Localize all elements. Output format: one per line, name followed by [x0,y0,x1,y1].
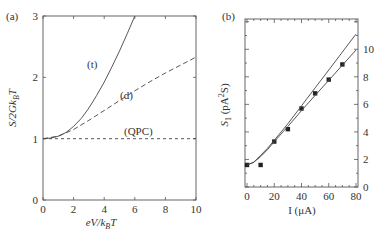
panel-b-ticks: 0204060800246810 [244,19,374,202]
x-tick-label: 40 [296,190,308,202]
x-tick-label: 20 [269,190,281,202]
panel-a-ticks: 02468100123 [33,10,203,215]
panel-b-label: (b) [222,10,235,23]
panel-a-frame [43,16,196,200]
fit-line [247,34,356,165]
panel-b: 0204060800246810 (b) I (μA) S1 (pA2S) [217,10,375,217]
data-point [258,163,262,167]
panel-a-label: (a) [6,10,19,23]
y-tick-label: 8 [363,71,369,83]
panel-b-ylabel: S1 (pA2S) [217,83,233,126]
panel-a-xlabel: eV/kBT [86,216,117,231]
figure: 02468100123 (a) (t) (d) (QPC) eV/kBT S/2… [0,0,387,239]
panel-b-xlabel: I (μA) [288,204,316,217]
panel-a: 02468100123 (a) (t) (d) (QPC) eV/kBT S/2… [6,10,202,231]
y-tick-label: 2 [363,153,369,165]
y-tick-label: 6 [363,98,369,110]
x-tick-label: 0 [244,190,250,202]
x-tick-label: 0 [40,203,46,215]
x-tick-label: 60 [323,190,335,202]
panel-a-curves [43,16,196,139]
y-tick-label: 0 [33,194,39,206]
curve-t-label: (t) [87,58,98,71]
curve-qpc-label: (QPC) [124,125,153,138]
panel-a-ylabel: S/2GkBT [6,88,21,127]
x-tick-label: 4 [101,203,107,215]
y-tick-label: 3 [33,10,39,22]
y-tick-label: 2 [33,71,39,83]
y-tick-label: 1 [33,133,39,145]
x-tick-label: 8 [163,203,169,215]
x-tick-label: 10 [191,203,203,215]
x-tick-label: 80 [351,190,363,202]
panel-b-curves [245,34,356,167]
curve-d-label: (d) [120,89,133,102]
y-tick-label: 10 [363,43,375,55]
x-tick-label: 2 [71,203,77,215]
y-tick-label: 4 [363,126,369,138]
x-tick-label: 6 [132,203,138,215]
chart-svg: 02468100123 (a) (t) (d) (QPC) eV/kBT S/2… [0,0,387,239]
panel-b-frame [245,19,358,187]
y-tick-label: 0 [363,181,369,193]
